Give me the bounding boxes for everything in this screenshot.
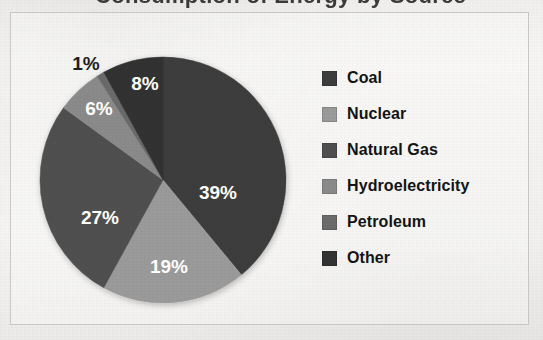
legend-item-petroleum[interactable]: Petroleum xyxy=(322,204,522,240)
chart-legend: CoalNuclearNatural GasHydroelectricityPe… xyxy=(322,60,522,276)
legend-swatch-nuclear xyxy=(322,107,337,122)
legend-item-hydroelectricity[interactable]: Hydroelectricity xyxy=(322,168,522,204)
legend-label-petroleum: Petroleum xyxy=(347,213,426,231)
legend-label-other: Other xyxy=(347,249,390,267)
legend-item-other[interactable]: Other xyxy=(322,240,522,276)
legend-swatch-coal xyxy=(322,71,337,86)
legend-swatch-hydroelectricity xyxy=(322,179,337,194)
legend-swatch-petroleum xyxy=(322,215,337,230)
legend-item-nuclear[interactable]: Nuclear xyxy=(322,96,522,132)
pie-label-nuclear: 19% xyxy=(150,256,188,277)
legend-label-nuclear: Nuclear xyxy=(347,105,406,123)
legend-swatch-natural-gas xyxy=(322,143,337,158)
legend-swatch-other xyxy=(322,251,337,266)
legend-label-coal: Coal xyxy=(347,69,382,87)
legend-item-coal[interactable]: Coal xyxy=(322,60,522,96)
legend-label-hydroelectricity: Hydroelectricity xyxy=(347,177,470,195)
pie-label-coal: 39% xyxy=(199,182,237,203)
legend-label-natural-gas: Natural Gas xyxy=(347,141,438,159)
pie-label-natural-gas: 27% xyxy=(81,207,119,228)
pie-label-other: 8% xyxy=(131,73,159,94)
pie-label-hydroelectricity: 6% xyxy=(85,98,113,119)
legend-item-natural-gas[interactable]: Natural Gas xyxy=(322,132,522,168)
pie-label-petroleum: 1% xyxy=(72,53,100,74)
